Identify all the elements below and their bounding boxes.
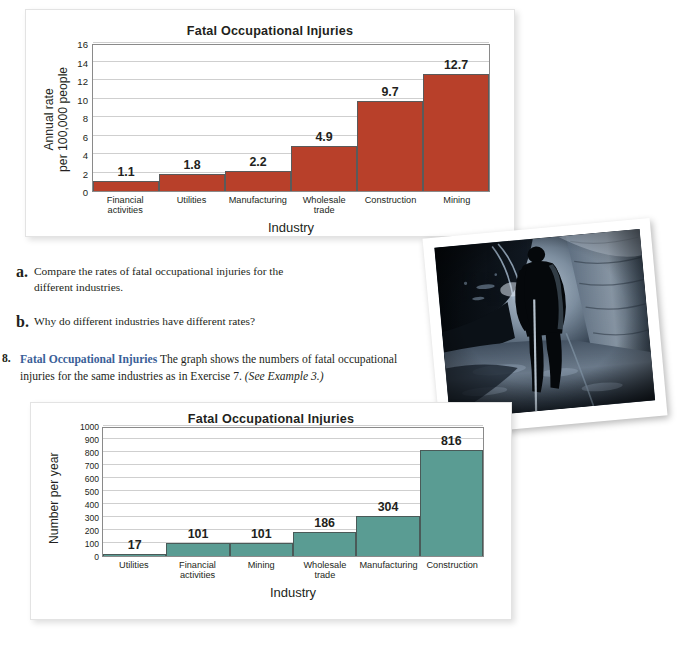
bar[interactable]: [420, 450, 483, 556]
mine-tunnel-photo: [434, 229, 655, 419]
bar[interactable]: [159, 174, 225, 191]
bar[interactable]: [423, 74, 489, 191]
y-tick-label: 0: [94, 552, 99, 562]
bar-slot: 1.8: [159, 45, 225, 191]
x-tick-label-line: Utilities: [102, 560, 166, 570]
x-tick-label-line: trade: [293, 570, 357, 580]
bar-value-label: 17: [128, 538, 142, 552]
gridline: [103, 425, 483, 426]
bar[interactable]: [230, 543, 293, 556]
bar-slot: 17: [103, 428, 166, 556]
bar[interactable]: [293, 532, 356, 556]
y-tick-label: 14: [77, 57, 88, 68]
bar-slot: 2.2: [225, 45, 291, 191]
y-tick-label: 8: [83, 113, 88, 124]
x-tick-label: Mining: [424, 195, 490, 216]
x-tick-label-line: Mining: [424, 195, 490, 205]
y-tick-label: 700: [85, 461, 99, 471]
y-tick-label: 0: [83, 187, 88, 198]
bar-slot: 1.1: [93, 45, 159, 191]
y-tick-label: 4: [83, 150, 88, 161]
count-chart-bars: 17101101186304816: [103, 428, 483, 556]
rate-chart-y-ticks: 0246810121416: [64, 44, 88, 192]
rate-chart-title: Fatal Occupational Injuries: [26, 24, 514, 38]
x-tick-label-line: trade: [291, 205, 357, 215]
y-tick-label: 6: [83, 131, 88, 142]
x-tick-label-line: Financial: [92, 195, 158, 205]
bar[interactable]: [166, 543, 229, 556]
x-tick-label-line: Wholesale: [293, 560, 357, 570]
bar[interactable]: [225, 171, 291, 191]
y-tick-label: 100: [85, 539, 99, 549]
y-tick-label: 12: [77, 76, 88, 87]
x-tick-label-line: Manufacturing: [225, 195, 291, 205]
count-chart-y-axis-title: Number per year: [47, 428, 61, 568]
x-tick-label-line: Utilities: [158, 195, 224, 205]
y-tick-label: 2: [83, 168, 88, 179]
bar-value-label: 1.1: [117, 165, 134, 179]
x-tick-label: Utilities: [158, 195, 224, 216]
exercise-7-part-a: a. Compare the rates of fatal occupation…: [16, 263, 316, 295]
count-chart-y-ticks: 01002003004005006007008009001000: [63, 427, 99, 557]
rate-chart-bars: 1.11.82.24.99.712.7: [93, 45, 489, 191]
mine-tunnel-illustration: [434, 229, 655, 419]
x-tick-label: Utilities: [102, 560, 166, 581]
x-tick-label-line: activities: [166, 570, 230, 580]
bar[interactable]: [356, 516, 419, 556]
part-a-marker: a.: [16, 263, 34, 295]
gridline: [93, 42, 489, 43]
rate-chart-plot-area: 1.11.82.24.99.712.7: [92, 44, 490, 192]
y-tick-label: 200: [85, 526, 99, 536]
bar-value-label: 9.7: [381, 85, 398, 99]
y-tick-label: 500: [85, 487, 99, 497]
count-chart-x-axis-title: Industry: [102, 585, 484, 600]
exercise-8-body: Fatal Occupational Injuries The graph sh…: [20, 352, 420, 386]
bar[interactable]: [103, 554, 166, 556]
bar-slot: 12.7: [423, 45, 489, 191]
rate-y-axis-title-line1: Annual rate: [42, 59, 56, 179]
x-tick-label-line: Construction: [357, 195, 423, 205]
y-tick-label: 1000: [80, 422, 99, 432]
x-tick-label: Wholesaletrade: [291, 195, 357, 216]
rate-chart-x-tick-labels: FinancialactivitiesUtilitiesManufacturin…: [92, 195, 490, 216]
bar-slot: 4.9: [291, 45, 357, 191]
x-tick-label-line: Wholesale: [291, 195, 357, 205]
bar-value-label: 186: [314, 516, 335, 530]
count-chart-plot-area: 17101101186304816: [102, 427, 484, 557]
count-chart-x-tick-labels: UtilitiesFinancialactivitiesMiningWholes…: [102, 560, 484, 581]
y-tick-label: 600: [85, 474, 99, 484]
bar-value-label: 12.7: [444, 58, 468, 72]
x-tick-label: Manufacturing: [357, 560, 421, 581]
x-tick-label-line: Construction: [420, 560, 484, 570]
y-tick-label: 900: [85, 435, 99, 445]
count-chart-panel: Fatal Occupational Injuries Number per y…: [30, 402, 512, 620]
bar-slot: 9.7: [357, 45, 423, 191]
bar-slot: 816: [420, 428, 483, 556]
x-tick-label-line: activities: [92, 205, 158, 215]
bar-value-label: 101: [188, 527, 209, 541]
x-tick-label: Construction: [357, 195, 423, 216]
y-tick-label: 10: [77, 94, 88, 105]
x-tick-label-line: Manufacturing: [357, 560, 421, 570]
bar[interactable]: [93, 181, 159, 191]
bar-slot: 304: [356, 428, 419, 556]
part-b-text: Why do different industries have differe…: [34, 313, 255, 331]
bar-value-label: 2.2: [249, 155, 266, 169]
bar-slot: 101: [230, 428, 293, 556]
bar[interactable]: [291, 146, 357, 191]
bar-value-label: 4.9: [315, 130, 332, 144]
x-tick-label: Construction: [420, 560, 484, 581]
rate-chart-x-axis-title: Industry: [92, 220, 490, 235]
bar[interactable]: [357, 101, 423, 191]
y-tick-label: 16: [77, 39, 88, 50]
exercise-8-heading[interactable]: Fatal Occupational Injuries: [20, 353, 157, 366]
x-tick-label-line: Financial: [166, 560, 230, 570]
bar-value-label: 816: [441, 434, 462, 448]
bar-value-label: 304: [378, 500, 399, 514]
x-tick-label: Manufacturing: [225, 195, 291, 216]
x-tick-label: Wholesaletrade: [293, 560, 357, 581]
x-tick-label: Mining: [229, 560, 293, 581]
rate-chart-panel: Fatal Occupational Injuries Annual rate …: [25, 9, 515, 237]
bar-slot: 101: [166, 428, 229, 556]
exercise-8-example-reference: (See Example 3.): [245, 370, 324, 383]
